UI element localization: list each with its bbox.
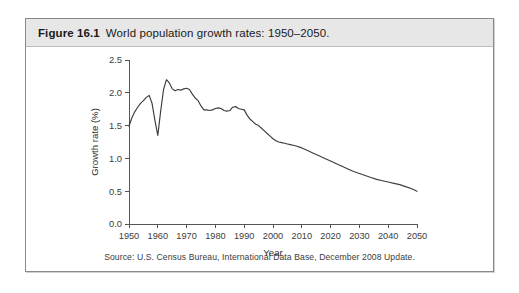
x-tick-label: 2030 <box>349 231 369 241</box>
y-tick-label: 1.5 <box>109 120 122 131</box>
x-tick-label: 2000 <box>263 231 283 241</box>
x-tick-label: 2040 <box>378 231 398 241</box>
x-tick-label: 2050 <box>407 231 427 241</box>
figure-container: Figure 16.1 World population growth rate… <box>25 18 494 272</box>
y-tick-label: 2.5 <box>109 54 122 65</box>
x-tick-label: 1980 <box>205 231 225 241</box>
x-tick-label: 2020 <box>320 231 340 241</box>
series-line-0 <box>129 80 417 192</box>
page-canvas: Figure 16.1 World population growth rate… <box>0 0 519 293</box>
x-tick-label: 1950 <box>119 231 139 241</box>
y-tick-label: 1.0 <box>109 153 122 164</box>
plot-area: 0.00.51.01.52.02.51950196019701980199020… <box>26 47 493 271</box>
figure-caption-text: World population growth rates: 1950–2050… <box>106 27 330 39</box>
y-tick-label: 0.5 <box>109 186 122 197</box>
y-tick-label: 2.0 <box>109 87 122 98</box>
figure-number: Figure 16.1 <box>38 27 100 39</box>
x-tick-label: 1970 <box>176 231 196 241</box>
y-tick-label: 0.0 <box>109 218 122 229</box>
figure-caption-band: Figure 16.1 World population growth rate… <box>26 19 493 47</box>
source-note: Source: U.S. Census Bureau, Internationa… <box>26 252 493 262</box>
y-axis-title: Growth rate (%) <box>89 108 100 176</box>
x-tick-label: 1990 <box>234 231 254 241</box>
growth-rate-line-chart: 0.00.51.01.52.02.51950196019701980199020… <box>26 47 495 273</box>
x-tick-label: 2010 <box>292 231 312 241</box>
x-tick-label: 1960 <box>148 231 168 241</box>
